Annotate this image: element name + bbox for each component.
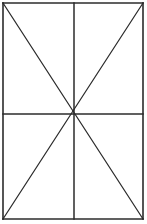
geometric-figure (0, 0, 147, 224)
figure-canvas (0, 0, 147, 224)
